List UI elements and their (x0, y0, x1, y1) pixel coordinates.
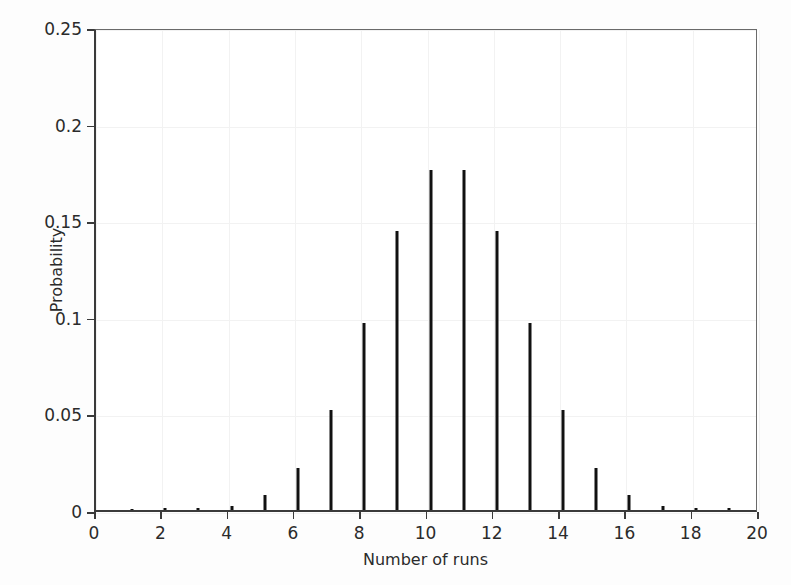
y-tick-label: 0 (71, 502, 82, 522)
y-tick-mark (87, 29, 94, 31)
x-tick-label: 2 (155, 523, 166, 543)
plot-area (94, 29, 757, 512)
x-tick-label: 14 (547, 523, 569, 543)
x-tick-label: 18 (680, 523, 702, 543)
x-tick-label: 4 (221, 523, 232, 543)
x-tick-label: 16 (614, 523, 636, 543)
bar (330, 410, 333, 510)
y-axis-title: Probability (47, 228, 66, 313)
y-tick-mark (87, 319, 94, 321)
bar (495, 231, 498, 510)
bar (296, 468, 299, 511)
bar-series (96, 30, 756, 510)
bar (164, 508, 167, 510)
x-tick-label: 0 (89, 523, 100, 543)
y-tick-mark (87, 512, 94, 514)
y-tick-label: 0.25 (44, 19, 82, 39)
y-tick-label: 0.05 (44, 405, 82, 425)
x-tick-mark (293, 512, 295, 519)
bar (562, 410, 565, 510)
x-tick-mark (757, 512, 759, 519)
x-tick-mark (426, 512, 428, 519)
bar (727, 508, 730, 510)
x-tick-mark (558, 512, 560, 519)
gridline-vertical (759, 30, 760, 510)
bar (462, 170, 465, 510)
x-tick-label: 12 (481, 523, 503, 543)
y-tick-mark (87, 415, 94, 417)
x-tick-mark (624, 512, 626, 519)
x-tick-label: 8 (354, 523, 365, 543)
bar (396, 231, 399, 510)
x-axis-title: Number of runs (94, 550, 757, 569)
x-tick-mark (691, 512, 693, 519)
y-tick-mark (87, 126, 94, 128)
x-tick-mark (94, 512, 96, 519)
x-tick-label: 10 (415, 523, 437, 543)
bar (263, 495, 266, 510)
x-tick-mark (227, 512, 229, 519)
bar (429, 170, 432, 510)
bar (230, 506, 233, 510)
x-tick-mark (359, 512, 361, 519)
bar (131, 509, 134, 510)
x-tick-label: 6 (287, 523, 298, 543)
bar (694, 508, 697, 510)
x-tick-mark (160, 512, 162, 519)
bar (595, 468, 598, 511)
bar (661, 506, 664, 510)
y-tick-label: 0.2 (55, 116, 82, 136)
figure-canvas: 02468101214161820 00.050.10.150.20.25 Nu… (0, 0, 791, 585)
x-tick-mark (492, 512, 494, 519)
y-tick-mark (87, 222, 94, 224)
bar (197, 508, 200, 510)
bar (528, 323, 531, 510)
x-tick-label: 20 (746, 523, 768, 543)
bar (363, 323, 366, 510)
bar (628, 495, 631, 510)
